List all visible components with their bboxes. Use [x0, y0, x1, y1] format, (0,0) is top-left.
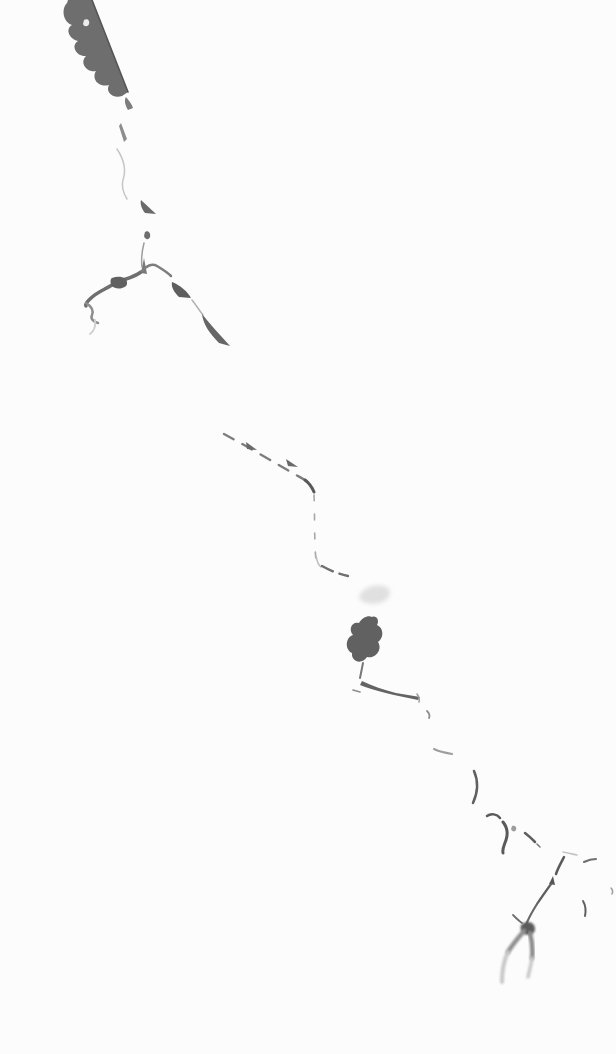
- crack-segment-dash-bottom: [322, 566, 348, 576]
- crack-segment-dash-vert: [314, 495, 316, 561]
- crack-segment-v-right-a: [530, 933, 532, 958]
- crack-segment-cloud-blob: [347, 616, 383, 661]
- crack-segment-stroke-ne: [556, 857, 564, 874]
- crack-segment-streak-dash: [353, 690, 360, 692]
- crack-segment-smudge: [359, 586, 390, 604]
- crack-segment-btm-twig: [513, 915, 522, 923]
- crack-photograph: [0, 0, 616, 1054]
- crack-svg: [0, 0, 616, 1054]
- crack-segment-faint-dash-3: [563, 852, 577, 855]
- crack-segment-hook-down: [503, 822, 507, 853]
- crack-segment-btm-cont: [526, 904, 537, 925]
- crack-segment-v-left-a: [508, 931, 524, 952]
- crack-segment-vert-stroke-2: [583, 901, 586, 916]
- crack-segment-branch-left-hook: [86, 303, 98, 323]
- crack-segment-dash-diag: [224, 434, 312, 484]
- crack-segment-vert-stroke-1: [473, 771, 477, 803]
- crack-segment-sliver-2: [119, 123, 127, 142]
- crack-segment-branch-left: [86, 272, 141, 306]
- crack-segment-mid-dash: [525, 833, 535, 842]
- crack-segment-tiny-right: [611, 888, 613, 894]
- crack-segment-tick-1: [427, 711, 429, 718]
- crack-segment-branch-left-curl: [90, 320, 95, 334]
- crack-segment-triangle-1: [141, 200, 156, 214]
- crack-segment-v-right-b: [528, 958, 532, 977]
- crack-segment-wedge: [202, 314, 230, 346]
- crack-segment-blob-tail: [360, 663, 363, 678]
- crack-segment-top-mass: [64, 0, 128, 97]
- crack-segment-btm-diag: [537, 884, 551, 904]
- crack-segment-triangle-2: [172, 282, 191, 298]
- crack-segment-streak: [360, 681, 420, 700]
- crack-segment-faint-curve: [117, 149, 127, 199]
- crack-segment-mid-tick: [537, 844, 540, 847]
- crack-segment-dash-tri-b: [286, 459, 298, 467]
- crack-segment-link-thin: [192, 300, 203, 315]
- crack-segment-junction-arc: [142, 265, 171, 276]
- crack-segment-dot-2: [511, 826, 516, 832]
- crack-segment-branch-left-blob: [111, 277, 128, 289]
- crack-segment-edge-dash: [584, 859, 596, 862]
- crack-segment-corner-dark: [305, 480, 314, 492]
- crack-segment-faint-dash-2: [434, 749, 452, 754]
- crack-segment-hook-top: [487, 814, 500, 818]
- crack-segment-sliver-1: [125, 97, 133, 110]
- crack-segment-dot-1: [144, 231, 150, 239]
- crack-segment-corner-2: [316, 556, 321, 567]
- crack-segment-v-left-b: [502, 952, 508, 982]
- crack-segments-group: [64, 0, 613, 982]
- crack-segment-dash-tri-a: [246, 442, 257, 450]
